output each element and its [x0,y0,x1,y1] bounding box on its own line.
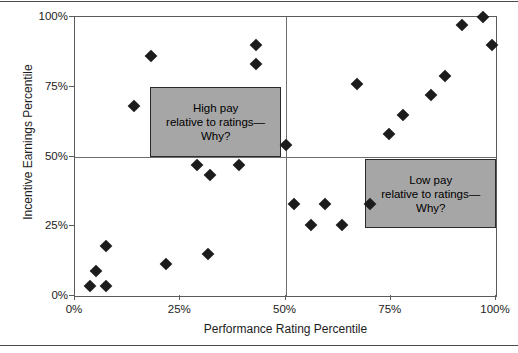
y-axis-tick-labels: 0%25%50%75%100% [0,0,68,353]
data-point [382,128,395,141]
y-tick-label: 25% [45,219,68,231]
data-point [304,218,317,231]
plot-area: High payrelative to ratings—Why?Low payr… [75,17,496,296]
annotation-line: Why? [201,129,230,143]
data-point [288,198,301,211]
data-point [201,248,214,261]
data-point [84,280,97,293]
data-point [250,39,263,52]
y-tick-label: 0% [51,289,68,301]
data-point [279,139,292,152]
data-point [90,265,103,278]
annotation-high-pay: High payrelative to ratings—Why? [150,87,281,157]
x-tick-label: 0% [66,303,83,315]
annotation-line: High pay [193,101,238,115]
data-point [203,168,216,181]
x-tick-label: 75% [378,303,401,315]
y-tick [69,156,74,157]
annotation-line: relative to ratings— [381,187,480,201]
y-tick [69,86,74,87]
scatter-chart-figure: Incentive Earnings Percentile 0%25%50%75… [0,0,518,353]
data-point [250,58,263,71]
x-axis-title: Performance Rating Percentile [74,322,497,336]
x-tick-label: 50% [273,303,296,315]
y-tick-label: 50% [45,150,68,162]
plot-frame: High payrelative to ratings—Why?Low payr… [74,16,497,297]
data-point [351,78,364,91]
data-point [128,100,141,113]
reference-line-y-50 [75,157,496,158]
x-tick-label: 100% [480,303,509,315]
annotation-line: relative to ratings— [166,115,265,129]
y-tick-label: 100% [39,10,68,22]
data-point [159,258,172,271]
x-tick [495,295,496,300]
data-point [144,50,157,63]
annotation-line: Low pay [409,173,452,187]
x-tick [74,295,75,300]
data-point [319,198,332,211]
data-point [424,89,437,102]
data-point [477,11,490,24]
annotation-low-pay: Low payrelative to ratings—Why? [365,159,496,229]
data-point [397,108,410,121]
x-tick [285,295,286,300]
data-point [439,69,452,82]
data-point [233,158,246,171]
x-tick-label: 25% [168,303,191,315]
data-point [485,39,498,52]
top-divider-rule [0,1,518,2]
bottom-divider-rule [0,345,518,346]
x-tick [179,295,180,300]
y-tick-label: 75% [45,80,68,92]
data-point [191,158,204,171]
y-tick [69,225,74,226]
data-point [336,218,349,231]
x-tick [390,295,391,300]
annotation-line: Why? [416,201,445,215]
y-tick [69,16,74,17]
data-point [456,19,469,32]
data-point [99,239,112,252]
y-tick [69,295,74,296]
data-point [99,280,112,293]
